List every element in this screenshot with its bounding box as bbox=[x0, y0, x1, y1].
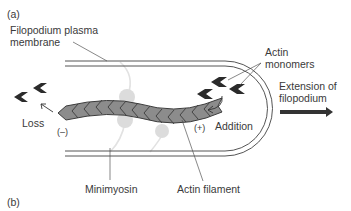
loss-label: Loss bbox=[22, 117, 44, 129]
added-monomers bbox=[197, 77, 245, 99]
plus-end-label: (+) bbox=[194, 122, 205, 134]
myosin-head bbox=[155, 124, 169, 138]
minimyosin-label: Minimyosin bbox=[85, 183, 138, 195]
membrane-label-line2: membrane bbox=[10, 36, 60, 48]
extension-arrow bbox=[280, 107, 333, 117]
actin-filament bbox=[58, 98, 222, 124]
addition-label: Addition bbox=[215, 120, 253, 132]
membrane-label-line1: Filopodium plasma bbox=[10, 24, 98, 36]
minus-end-label: (–) bbox=[57, 126, 68, 138]
extension-label-line2: filopodium bbox=[279, 92, 327, 104]
panel-label-a: (a) bbox=[7, 8, 20, 20]
loss-arrow bbox=[41, 104, 53, 112]
panel-label-b: (b) bbox=[7, 196, 20, 208]
extension-label-line1: Extension of bbox=[279, 80, 337, 92]
monomer-icon bbox=[197, 89, 213, 99]
membrane-pointer bbox=[73, 42, 107, 61]
filament-body bbox=[58, 98, 222, 123]
monomers-label-line1: Actin bbox=[265, 46, 288, 58]
monomers-label-line2: monomers bbox=[265, 58, 315, 70]
actin-filament-label: Actin filament bbox=[177, 183, 240, 195]
monomer-icon bbox=[211, 77, 227, 87]
monomer-icon bbox=[33, 83, 47, 93]
lost-monomers bbox=[14, 83, 47, 102]
monomer-icon bbox=[229, 84, 245, 94]
monomer-icon bbox=[14, 92, 28, 102]
